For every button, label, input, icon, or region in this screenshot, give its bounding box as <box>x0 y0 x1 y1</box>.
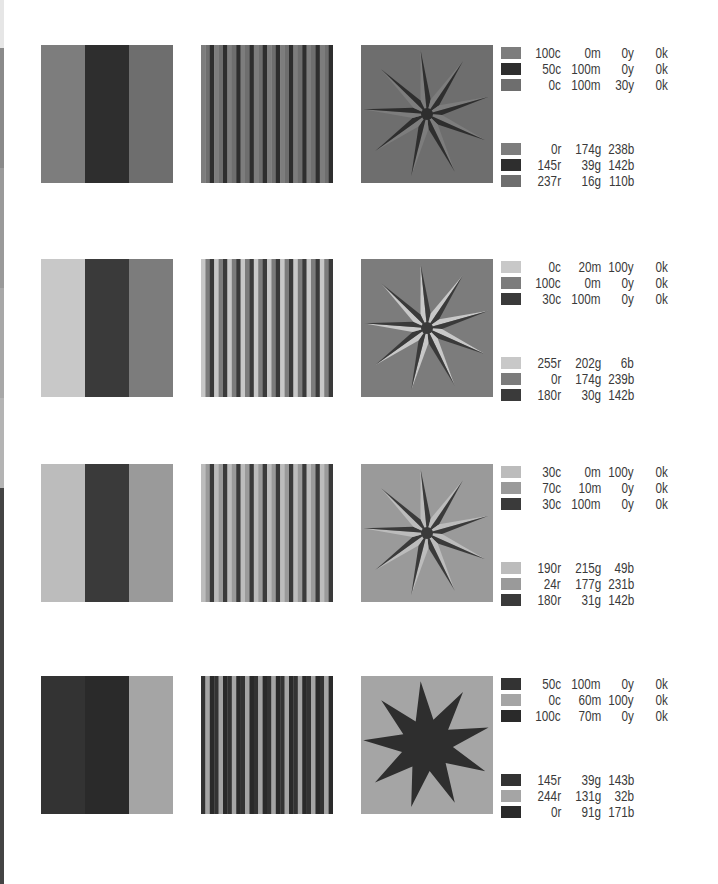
red-value: 145r <box>538 772 561 788</box>
edge-strip-segment <box>0 0 4 48</box>
magenta-value: 20m <box>578 259 601 275</box>
cyan-value: 0c <box>549 77 561 93</box>
blue-value: 142b <box>608 157 634 173</box>
rgb-legend-row: 145r39g143b <box>501 772 718 788</box>
nine-point-star-icon <box>361 259 493 397</box>
rgb-legend: 0r174g238b145r39g142b237r16g110b <box>501 141 718 189</box>
yellow-value: 100y <box>609 692 634 708</box>
color-swatch <box>501 47 521 59</box>
cmyk-legend-row: 0c20m100y0k <box>501 259 718 275</box>
rgb-legend: 145r39g143b244r131g32b0r91g171b <box>501 772 718 820</box>
bar-3 <box>129 676 173 814</box>
color-swatch <box>501 357 521 369</box>
color-swatch <box>501 774 521 786</box>
green-value: 174g <box>575 141 601 157</box>
rgb-legend-row: 0r174g238b <box>501 141 718 157</box>
cyan-value: 50c <box>542 61 561 77</box>
color-swatch <box>501 790 521 802</box>
stripe-pattern-panel <box>201 464 333 602</box>
color-swatch <box>501 389 521 401</box>
black-value: 0k <box>656 259 668 275</box>
bar-2 <box>85 45 129 183</box>
green-value: 131g <box>575 788 601 804</box>
color-swatch <box>501 373 521 385</box>
green-value: 91g <box>581 804 601 820</box>
yellow-value: 100y <box>609 259 634 275</box>
cyan-value: 50c <box>542 676 561 692</box>
black-value: 0k <box>656 480 668 496</box>
color-swatch <box>501 293 521 305</box>
cmyk-legend-row: 70c10m0y0k <box>501 480 718 496</box>
cyan-value: 30c <box>542 464 561 480</box>
cyan-value: 0c <box>549 259 561 275</box>
bar-2 <box>85 676 129 814</box>
color-swatch <box>501 159 521 171</box>
blue-value: 110b <box>609 173 634 189</box>
rgb-legend-row: 0r91g171b <box>501 804 718 820</box>
rgb-legend-row: 0r174g239b <box>501 371 718 387</box>
color-sample-row: 100c0m0y0k50c100m0y0k0c100m30y0k 0r174g2… <box>0 45 718 185</box>
yellow-value: 0y <box>622 676 634 692</box>
color-swatch <box>501 578 521 590</box>
cyan-value: 30c <box>542 496 561 512</box>
red-value: 180r <box>538 592 561 608</box>
green-value: 215g <box>575 560 601 576</box>
bar-3 <box>129 464 173 602</box>
magenta-value: 100m <box>572 77 601 93</box>
rgb-legend-row: 237r16g110b <box>501 173 718 189</box>
blue-value: 6b <box>621 355 634 371</box>
color-sample-row: 50c100m0y0k0c60m100y0k100c70m0y0k 145r39… <box>0 676 718 816</box>
green-value: 177g <box>575 576 601 592</box>
magenta-value: 100m <box>572 676 601 692</box>
color-swatch <box>501 594 521 606</box>
cmyk-legend: 30c0m100y0k70c10m0y0k30c100m0y0k <box>501 464 718 512</box>
magenta-value: 100m <box>572 61 601 77</box>
blue-value: 142b <box>608 387 634 403</box>
rgb-legend-row: 180r30g142b <box>501 387 718 403</box>
cmyk-legend: 100c0m0y0k50c100m0y0k0c100m30y0k <box>501 45 718 93</box>
black-value: 0k <box>656 275 668 291</box>
black-value: 0k <box>656 692 668 708</box>
yellow-value: 0y <box>622 708 634 724</box>
red-value: 24r <box>544 576 561 592</box>
nine-point-star-icon <box>361 45 493 183</box>
green-value: 16g <box>581 173 601 189</box>
three-bar-swatch-panel <box>41 464 173 602</box>
rgb-legend: 190r215g49b24r177g231b180r31g142b <box>501 560 718 608</box>
magenta-value: 0m <box>585 464 601 480</box>
cyan-value: 0c <box>549 692 561 708</box>
cmyk-legend-row: 100c0m0y0k <box>501 275 718 291</box>
red-value: 237r <box>538 173 561 189</box>
color-swatch <box>501 694 521 706</box>
blue-value: 32b <box>614 788 634 804</box>
color-swatch <box>501 261 521 273</box>
cyan-value: 70c <box>542 480 561 496</box>
bar-1 <box>41 676 85 814</box>
blue-value: 143b <box>608 772 634 788</box>
yellow-value: 0y <box>622 61 634 77</box>
black-value: 0k <box>656 464 668 480</box>
yellow-value: 0y <box>622 291 634 307</box>
magenta-value: 0m <box>585 275 601 291</box>
three-bar-swatch-panel <box>41 259 173 397</box>
color-swatch <box>501 482 521 494</box>
nine-point-star-icon <box>361 464 493 602</box>
cmyk-legend-row: 50c100m0y0k <box>501 676 718 692</box>
yellow-value: 0y <box>622 480 634 496</box>
bar-1 <box>41 259 85 397</box>
red-value: 255r <box>538 355 561 371</box>
black-value: 0k <box>656 61 668 77</box>
cmyk-legend: 0c20m100y0k100c0m0y0k30c100m0y0k <box>501 259 718 307</box>
blue-value: 142b <box>608 592 634 608</box>
blue-value: 49b <box>614 560 634 576</box>
vertical-stripes-pattern <box>201 464 333 602</box>
green-value: 39g <box>581 157 601 173</box>
black-value: 0k <box>656 291 668 307</box>
green-value: 174g <box>575 371 601 387</box>
yellow-value: 30y <box>615 77 634 93</box>
cmyk-legend-row: 30c100m0y0k <box>501 496 718 512</box>
star-pattern-panel <box>361 464 493 602</box>
three-bar-swatch-panel <box>41 676 173 814</box>
color-swatch <box>501 806 521 818</box>
green-value: 30g <box>581 387 601 403</box>
